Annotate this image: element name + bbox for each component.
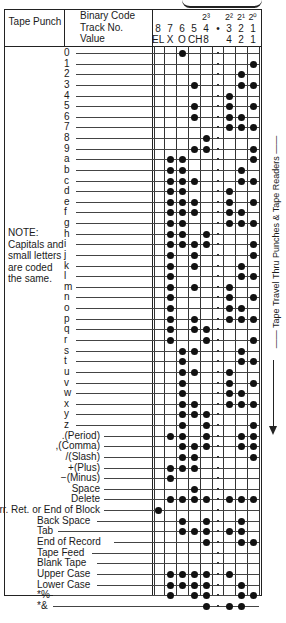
punch-hole-track-5 <box>191 348 198 355</box>
row-label: w <box>64 388 71 398</box>
sprocket-feed-hole <box>217 339 219 341</box>
punch-hole-track-6 <box>179 401 186 408</box>
row-label: f <box>64 207 67 217</box>
row-label: ,(Comma) <box>56 441 100 451</box>
tape-travel-label: —— Tape Travel Thru Punches & Tape Reade… <box>271 136 281 349</box>
sprocket-feed-hole <box>217 95 219 97</box>
grid-left-border <box>152 9 153 596</box>
tape-punch-header: Tape Punch <box>8 16 62 28</box>
punch-hole-track-4 <box>203 411 210 418</box>
row-leader-line <box>76 64 259 65</box>
punch-hole-track-4 <box>203 422 210 429</box>
punch-hole-track-3 <box>226 199 233 206</box>
row-leader-line <box>76 414 259 415</box>
punch-hole-track-6 <box>179 231 186 238</box>
punch-hole-track-6 <box>179 241 186 248</box>
punch-hole-track-4 <box>203 326 210 333</box>
row-label: y <box>64 409 69 419</box>
sprocket-feed-hole <box>217 456 219 458</box>
punch-hole-track-1 <box>250 433 257 440</box>
row-label: 5 <box>64 101 70 111</box>
punch-hole-track-5 <box>191 316 198 323</box>
punch-hole-track-5 <box>191 443 198 450</box>
punch-hole-track-3 <box>226 528 233 535</box>
punch-hole-track-1 <box>250 422 257 429</box>
punch-hole-track-7 <box>167 167 174 174</box>
punch-hole-track-6 <box>179 443 186 450</box>
punch-hole-track-6 <box>179 220 186 227</box>
sprocket-feed-hole <box>217 307 219 309</box>
punch-hole-track-5 <box>191 146 198 153</box>
punch-hole-track-1 <box>250 199 257 206</box>
punch-hole-track-7 <box>167 496 174 503</box>
column-track-c4: 4 <box>200 23 212 34</box>
binary-code-label: Binary Code <box>80 10 135 22</box>
row-label: 7 <box>64 122 70 132</box>
punch-hole-track-6 <box>179 167 186 174</box>
sprocket-feed-hole <box>217 105 219 107</box>
punch-hole-track-1 <box>250 401 257 408</box>
row-label: 3 <box>64 80 70 90</box>
punch-hole-track-7 <box>167 284 174 291</box>
column-track-c7: 7 <box>164 23 176 34</box>
column-power-c4: 2³ <box>200 12 212 23</box>
row-leader-line <box>92 553 259 554</box>
row-leader-line <box>76 85 259 86</box>
punch-hole-track-7 <box>167 241 174 248</box>
punch-hole-track-3 <box>226 103 233 110</box>
sprocket-feed-hole <box>217 382 219 384</box>
column-power-c3: 2² <box>223 12 235 23</box>
column-track-c6: 6 <box>176 23 188 34</box>
punch-hole-track-5 <box>191 209 198 216</box>
punch-hole-track-7 <box>167 294 174 301</box>
punch-hole-track-7 <box>167 337 174 344</box>
column-track-c3: 3 <box>223 23 235 34</box>
punch-hole-track-2 <box>238 539 245 546</box>
punch-hole-track-8 <box>155 507 162 514</box>
punch-hole-track-2 <box>238 390 245 397</box>
binary-code-header: Binary Code Track No. Value <box>80 10 135 45</box>
track-no-label: Track No. <box>80 22 135 34</box>
punch-hole-track-2 <box>238 316 245 323</box>
punch-hole-track-5 <box>191 411 198 418</box>
sprocket-feed-hole <box>217 137 219 139</box>
row-label: *& <box>37 601 48 611</box>
punch-hole-track-7 <box>167 582 174 589</box>
punch-hole-track-6 <box>179 518 186 525</box>
punch-hole-track-5 <box>191 263 198 270</box>
row-leader-line <box>97 563 259 564</box>
punch-hole-track-2 <box>238 443 245 450</box>
punch-hole-track-1 <box>250 592 257 599</box>
punch-hole-track-3 <box>226 305 233 312</box>
punch-hole-track-7 <box>167 305 174 312</box>
punch-hole-track-5 <box>191 252 198 259</box>
row-label: o <box>64 303 70 313</box>
row-label: 0 <box>64 48 70 58</box>
header-column-divider <box>64 9 65 46</box>
sprocket-feed-hole <box>217 63 219 65</box>
row-leader-line <box>104 510 259 511</box>
punch-hole-track-2 <box>238 592 245 599</box>
sprocket-feed-hole <box>217 296 219 298</box>
row-label: Upper Case <box>37 569 90 579</box>
punch-hole-track-5 <box>191 465 198 472</box>
punch-hole-track-1 <box>250 358 257 365</box>
punch-hole-track-4 <box>203 231 210 238</box>
column-track-c1: 1 <box>247 23 259 34</box>
punch-hole-track-6 <box>179 528 186 535</box>
punch-hole-track-4 <box>203 443 210 450</box>
row-label: a <box>64 154 70 164</box>
column-value-c2: 2 <box>235 34 247 45</box>
punch-hole-track-2 <box>238 114 245 121</box>
row-label: q <box>64 324 70 334</box>
punch-hole-track-1 <box>250 443 257 450</box>
punch-hole-track-2 <box>238 582 245 589</box>
punch-hole-track-6 <box>179 358 186 365</box>
sprocket-feed-hole <box>217 158 219 160</box>
punch-hole-track-5 <box>191 178 198 185</box>
sprocket-feed-hole <box>217 445 219 447</box>
sprocket-feed-hole <box>217 116 219 118</box>
punch-hole-track-3 <box>226 603 233 610</box>
punch-hole-track-3 <box>226 93 233 100</box>
sprocket-feed-hole <box>217 73 219 75</box>
